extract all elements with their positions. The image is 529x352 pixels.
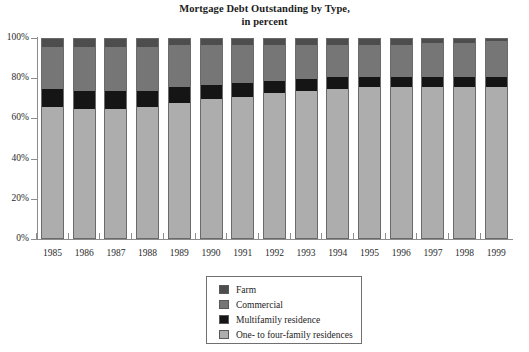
x-axis-label-1996: 1996: [384, 248, 418, 258]
bar-segment: [201, 45, 222, 85]
bar-segment: [232, 45, 253, 83]
bar-segment: [105, 39, 126, 47]
bar-1992[interactable]: [263, 38, 286, 239]
x-axis-label-1987: 1987: [99, 248, 133, 258]
legend-label: Multifamily residence: [236, 315, 320, 325]
y-axis-label: 80%: [0, 73, 29, 83]
bar-1990[interactable]: [200, 38, 223, 239]
bar-segment: [486, 77, 507, 87]
bar-segment: [359, 87, 380, 239]
bar-segment: [391, 87, 412, 239]
bar-segment: [359, 45, 380, 77]
bar-segment: [105, 47, 126, 91]
bar-1988[interactable]: [136, 38, 159, 239]
bar-segment: [169, 103, 190, 239]
x-axis-label-1989: 1989: [162, 248, 196, 258]
bar-1987[interactable]: [104, 38, 127, 239]
x-axis-label-1991: 1991: [226, 248, 260, 258]
bar-1991[interactable]: [231, 38, 254, 239]
bar-segment: [169, 87, 190, 103]
bar-segment: [201, 85, 222, 99]
bar-segment: [74, 47, 95, 91]
bar-segment: [296, 79, 317, 91]
y-axis-label: 60%: [0, 113, 29, 123]
bar-segment: [137, 107, 158, 239]
legend-swatch-icon: [219, 300, 229, 309]
x-axis-label-1997: 1997: [416, 248, 450, 258]
bar-segment: [42, 47, 63, 89]
x-axis-label-1994: 1994: [321, 248, 355, 258]
chart-title: Mortgage Debt Outstanding by Type, in pe…: [0, 3, 529, 28]
legend-item[interactable]: Farm: [219, 282, 361, 297]
legend-swatch-icon: [219, 315, 229, 324]
x-axis-label-1990: 1990: [194, 248, 228, 258]
legend-label: Farm: [236, 285, 256, 295]
bar-segment: [454, 87, 475, 239]
bar-segment: [422, 43, 443, 77]
bar-segment: [201, 99, 222, 239]
legend-item[interactable]: Commercial: [219, 297, 361, 312]
bar-segment: [454, 77, 475, 87]
bar-segment: [74, 109, 95, 239]
bar-1986[interactable]: [73, 38, 96, 239]
x-axis-label-1992: 1992: [257, 248, 291, 258]
x-axis-label-1986: 1986: [67, 248, 101, 258]
bar-1989[interactable]: [168, 38, 191, 239]
bar-segment: [391, 77, 412, 87]
x-axis-label-1993: 1993: [289, 248, 323, 258]
bar-segment: [137, 47, 158, 91]
bar-segment: [42, 107, 63, 239]
bar-segment: [74, 39, 95, 47]
bar-segment: [137, 91, 158, 107]
y-axis-label: 20%: [0, 194, 29, 204]
bar-segment: [232, 97, 253, 239]
bar-1995[interactable]: [358, 38, 381, 239]
bar-segment: [422, 77, 443, 87]
bar-segment: [264, 45, 285, 81]
legend-item[interactable]: One- to four-family residences: [219, 327, 361, 342]
x-axis-label-1998: 1998: [448, 248, 482, 258]
bar-segment: [327, 89, 348, 239]
bar-segment: [454, 43, 475, 77]
bar-segment: [42, 89, 63, 107]
bar-segment: [486, 41, 507, 77]
bar-1985[interactable]: [41, 38, 64, 239]
chart-legend: FarmCommercialMultifamily residenceOne- …: [206, 276, 362, 344]
legend-label: Commercial: [236, 300, 283, 310]
bar-1998[interactable]: [453, 38, 476, 239]
y-axis-label: 40%: [0, 154, 29, 164]
bar-segment: [169, 45, 190, 87]
bar-segment: [264, 81, 285, 93]
bar-segment: [422, 87, 443, 239]
bar-1994[interactable]: [326, 38, 349, 239]
bar-segment: [105, 91, 126, 109]
y-axis-label: 0%: [0, 234, 29, 244]
bar-segment: [359, 77, 380, 87]
x-axis-label-1985: 1985: [36, 248, 70, 258]
bar-segment: [296, 45, 317, 79]
bar-segment: [74, 91, 95, 109]
x-axis-label-1995: 1995: [353, 248, 387, 258]
x-axis-label-1988: 1988: [131, 248, 165, 258]
bar-segment: [296, 91, 317, 239]
bar-segment: [327, 45, 348, 77]
bar-segment: [327, 77, 348, 89]
chart-title-line1: Mortgage Debt Outstanding by Type,: [179, 3, 350, 14]
bar-segment: [264, 93, 285, 239]
bar-segment: [232, 83, 253, 97]
bar-segment: [42, 39, 63, 47]
y-axis-label: 100%: [0, 33, 29, 43]
bar-segment: [137, 39, 158, 47]
bar-segment: [391, 45, 412, 77]
legend-label: One- to four-family residences: [236, 330, 353, 340]
bar-1999[interactable]: [485, 38, 508, 239]
legend-item[interactable]: Multifamily residence: [219, 312, 361, 327]
chart-title-line2: in percent: [0, 16, 529, 29]
x-axis-line: [37, 239, 513, 240]
bar-1993[interactable]: [295, 38, 318, 239]
legend-swatch-icon: [219, 285, 229, 294]
plot-area: [37, 38, 512, 239]
x-axis-label-1999: 1999: [479, 248, 513, 258]
bar-1996[interactable]: [390, 38, 413, 239]
bar-1997[interactable]: [421, 38, 444, 239]
